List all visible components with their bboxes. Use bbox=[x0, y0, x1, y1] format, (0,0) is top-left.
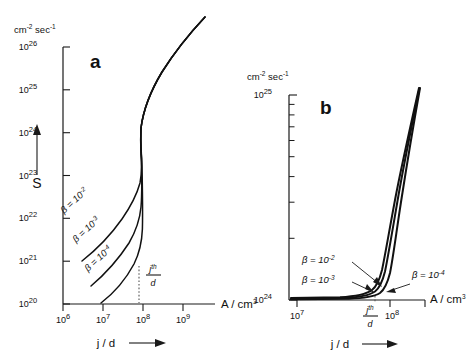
panel-b-curve-beta-1e-4 bbox=[291, 88, 420, 299]
panel-b-curve-beta-1e-3 bbox=[291, 88, 420, 299]
x-tick-label: 107 bbox=[96, 312, 110, 325]
panel-a-x-tick-labels: 106 107 108 109 bbox=[56, 312, 190, 325]
figure-root: cm-2 sec-1 a 1026 1025 1024 1023 1022 10… bbox=[0, 0, 474, 362]
panel-b-x-ticks bbox=[297, 300, 425, 307]
panel-a-y-axis-name: S bbox=[32, 175, 41, 191]
panel-b-x-axis-name: j / d bbox=[330, 338, 350, 350]
panel-b-label: b bbox=[320, 97, 332, 118]
panel-a-x-axis-name: j / d bbox=[96, 337, 116, 349]
panel-b-threshold-denominator: d bbox=[367, 319, 373, 329]
x-tick-label: 108 bbox=[136, 312, 150, 325]
panel-b-y-ticks bbox=[289, 95, 297, 300]
panel-b-beta-label-3: β = 10-4 bbox=[411, 269, 445, 281]
panel-b: cm-2 sec-1 b 1025 1024 bbox=[247, 70, 466, 350]
panel-a-label: a bbox=[90, 51, 101, 72]
panel-b-threshold-marker: jth d bbox=[363, 296, 378, 329]
panel-a-y-axis-name-group: S bbox=[32, 124, 41, 191]
y-tick-label: 1025 bbox=[19, 82, 37, 95]
x-tick-label: 107 bbox=[290, 308, 304, 321]
panel-b-x-axis-name-group: j / d bbox=[330, 338, 398, 350]
panel-a-x-ticks bbox=[63, 304, 183, 311]
panel-b-y-unit-label: cm-2 sec-1 bbox=[247, 70, 289, 82]
panel-a-y-ticks bbox=[63, 47, 70, 304]
x-tick-label: 109 bbox=[176, 312, 190, 325]
y-tick-label: 1022 bbox=[19, 210, 37, 223]
panel-a-threshold-marker: jth d bbox=[139, 263, 161, 304]
panel-a-y-tick-labels: 1026 1025 1024 1023 1022 1021 1020 bbox=[19, 39, 37, 309]
panel-a-x-axis-name-group: j / d bbox=[96, 337, 166, 349]
panel-b-x-tick-labels: 107 108 bbox=[290, 308, 399, 321]
panel-b-beta-callout-2: β = 10-3 bbox=[301, 274, 374, 293]
y-tick-label: 1020 bbox=[19, 296, 37, 309]
panel-b-y-minor-ticks bbox=[289, 104, 295, 238]
panel-b-threshold-numerator: jth bbox=[365, 304, 374, 316]
panel-b-beta-callout-3: β = 10-4 bbox=[386, 269, 445, 294]
panel-a-x-axis-secondary-name: A / cm3 bbox=[221, 298, 257, 310]
panel-b-x-axis-secondary-name: A / cm3 bbox=[430, 293, 466, 305]
y-tick-label: 1021 bbox=[19, 253, 37, 266]
panel-b-beta-label-1: β = 10-2 bbox=[301, 254, 335, 266]
panel-a-y-unit-label: cm-2 sec-1 bbox=[14, 23, 56, 35]
y-tick-label: 1024 bbox=[254, 292, 272, 305]
figure-svg: cm-2 sec-1 a 1026 1025 1024 1023 1022 10… bbox=[0, 0, 474, 362]
x-tick-label: 106 bbox=[56, 312, 70, 325]
panel-a-threshold-numerator: jth bbox=[148, 263, 157, 275]
y-tick-label: 1026 bbox=[19, 39, 37, 52]
x-tick-label: 108 bbox=[385, 308, 399, 321]
panel-a: cm-2 sec-1 a 1026 1025 1024 1023 1022 10… bbox=[14, 17, 257, 349]
panel-a-beta-label-1: β = 10-2 bbox=[57, 185, 90, 216]
panel-b-y-tick-labels: 1025 1024 bbox=[254, 87, 272, 305]
panel-b-beta-label-2: β = 10-3 bbox=[301, 274, 335, 286]
panel-a-beta-label-2: β = 10-3 bbox=[69, 214, 102, 245]
y-tick-label: 1025 bbox=[254, 87, 272, 100]
panel-a-threshold-denominator: d bbox=[150, 278, 156, 288]
